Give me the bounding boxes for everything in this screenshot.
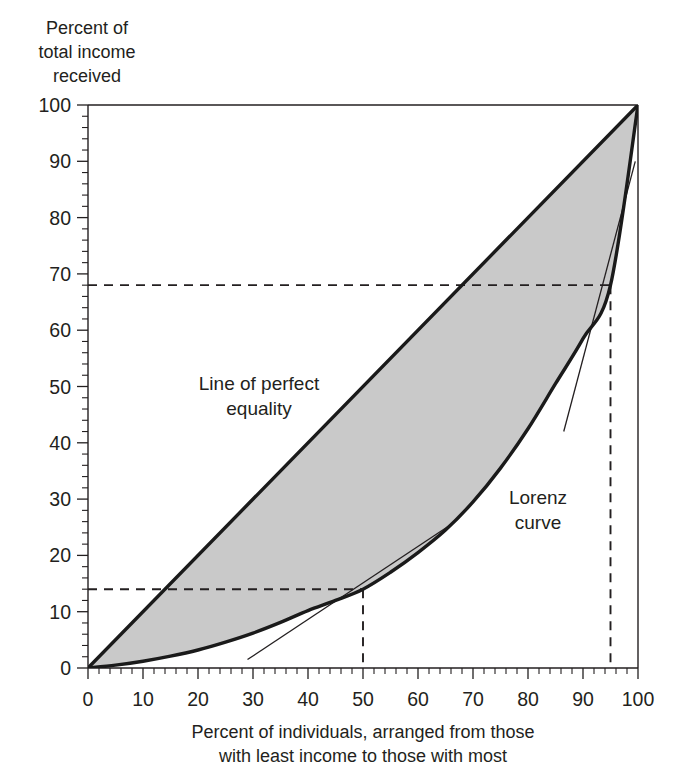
y-tick-label-90: 90 (49, 150, 71, 172)
x-tick-label-70: 70 (462, 688, 484, 710)
y-tick-label-30: 30 (49, 488, 71, 510)
x-tick-label-20: 20 (187, 688, 209, 710)
equality-line-annotation: Line of perfect equality (199, 373, 320, 419)
y-axis-title-line-1: Percent of (46, 18, 129, 38)
x-axis-title-line-2: with least income to those with most (218, 746, 507, 766)
x-tick-label-10: 10 (132, 688, 154, 710)
equality-label-line-2: equality (226, 398, 292, 419)
x-axis-tick-labels: 0102030405060708090100 (83, 688, 655, 710)
y-axis-title-line-3: received (53, 66, 121, 86)
x-tick-label-50: 50 (352, 688, 374, 710)
equality-label-line-1: Line of perfect (199, 373, 320, 394)
y-tick-label-50: 50 (49, 376, 71, 398)
y-tick-label-60: 60 (49, 319, 71, 341)
y-tick-label-40: 40 (49, 432, 71, 454)
lorenz-label-line-2: curve (515, 512, 561, 533)
x-tick-label-30: 30 (242, 688, 264, 710)
lorenz-curve-annotation: Lorenz curve (509, 487, 567, 533)
x-tick-label-40: 40 (297, 688, 319, 710)
y-axis-title-line-2: total income (38, 42, 135, 62)
x-axis-title-line-1: Percent of individuals, arranged from th… (191, 722, 534, 742)
y-tick-label-70: 70 (49, 263, 71, 285)
y-tick-label-100: 100 (38, 94, 71, 116)
lorenz-curve-figure: 0102030405060708090100 01020304050607080… (0, 0, 675, 779)
lorenz-label-line-1: Lorenz (509, 487, 567, 508)
y-tick-label-20: 20 (49, 544, 71, 566)
y-axis-ticks (77, 105, 88, 668)
y-tick-label-0: 0 (60, 657, 71, 679)
x-tick-label-80: 80 (517, 688, 539, 710)
y-axis-tick-labels: 0102030405060708090100 (38, 94, 71, 679)
y-axis-title: Percent of total income received (38, 18, 135, 86)
y-tick-label-10: 10 (49, 601, 71, 623)
x-tick-label-100: 100 (622, 688, 655, 710)
x-axis-title: Percent of individuals, arranged from th… (191, 722, 534, 766)
x-tick-label-60: 60 (407, 688, 429, 710)
x-axis-ticks (88, 668, 638, 679)
x-tick-label-90: 90 (572, 688, 594, 710)
y-tick-label-80: 80 (49, 207, 71, 229)
chart-canvas: 0102030405060708090100 01020304050607080… (0, 0, 675, 779)
x-tick-label-0: 0 (83, 688, 94, 710)
